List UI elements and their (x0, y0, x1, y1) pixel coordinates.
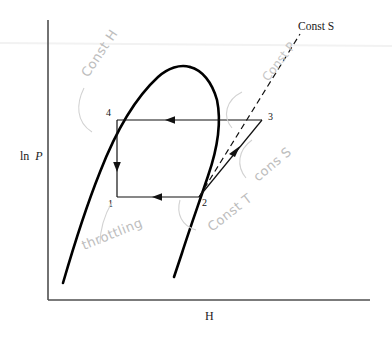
saturated-vapour-branch (174, 67, 219, 277)
label-cons-s: cons S (250, 144, 294, 184)
x-axis-label: H (205, 309, 214, 323)
segment-2-to-3 (199, 120, 262, 197)
leader-const-p (227, 92, 242, 128)
handwritten-annotations: Const H Const P cons S Const T throttlin… (78, 27, 298, 253)
state-label-2: 2 (202, 197, 207, 208)
y-axis-label-prefix: ln (20, 149, 29, 163)
arrow-1-to-2 (152, 193, 162, 201)
scan-artifact (0, 43, 392, 46)
arrow-2-to-3 (229, 146, 240, 157)
label-const-p: Const P (259, 39, 298, 83)
label-const-t: Const T (205, 191, 255, 235)
y-axis-label: ln P (20, 149, 43, 163)
const-s-prefix: Const (298, 20, 328, 32)
arrow-4-to-1 (113, 162, 121, 172)
label-throttling: throttling (80, 215, 145, 253)
label-const-h: Const H (78, 27, 121, 80)
const-s-printed-label: Const S (298, 20, 334, 32)
state-label-4: 4 (106, 107, 111, 118)
saturated-liquid-branch (63, 66, 190, 283)
state-label-3: 3 (268, 111, 273, 122)
y-axis-label-symbol: P (34, 149, 43, 163)
pressure-enthalpy-diagram: ln P H (0, 0, 392, 337)
arrow-3-to-4 (165, 116, 175, 124)
const-s-symbol: S (328, 20, 334, 32)
leader-const-h (79, 88, 92, 132)
